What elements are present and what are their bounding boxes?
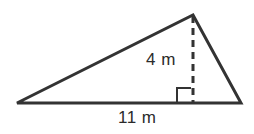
base-label: 11 m [118, 109, 157, 126]
triangle-outline [17, 15, 241, 103]
triangle-diagram: 4 m 11 m [0, 0, 254, 134]
height-label: 4 m [146, 51, 176, 68]
right-angle-marker-icon [177, 88, 191, 103]
